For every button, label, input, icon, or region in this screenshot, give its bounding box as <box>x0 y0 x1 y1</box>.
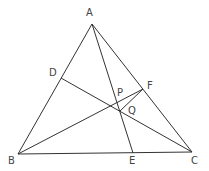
label-p: P <box>117 88 123 98</box>
geometry-figure: A D P F Q B E C <box>0 0 209 171</box>
segment-bc <box>18 152 192 154</box>
segment-ca <box>92 24 192 152</box>
segment-ae <box>92 24 133 153</box>
triangle-diagram <box>0 0 209 171</box>
label-e: E <box>129 156 135 166</box>
label-d: D <box>49 68 57 78</box>
segment-dc <box>61 78 192 152</box>
label-c: C <box>191 156 198 166</box>
label-a: A <box>86 8 93 18</box>
label-b: B <box>8 156 15 166</box>
label-f: F <box>147 81 153 91</box>
label-q: Q <box>128 106 136 116</box>
